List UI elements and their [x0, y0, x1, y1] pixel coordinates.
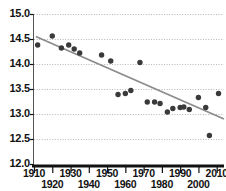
data-point [71, 46, 76, 51]
data-point [77, 50, 82, 55]
data-point [99, 52, 104, 57]
y-tick-label: 13.0 [0, 107, 30, 119]
data-points [35, 33, 221, 138]
x-tick-label: 1940 [72, 178, 106, 190]
x-tick-label: 1960 [108, 178, 142, 190]
data-point [108, 58, 113, 63]
y-tick-label: 14.5 [0, 32, 30, 44]
data-point [207, 133, 212, 138]
scatter-plot [0, 0, 226, 191]
data-point [216, 91, 221, 96]
x-tick-label: 1920 [35, 178, 69, 190]
data-point [66, 42, 71, 47]
data-point [157, 101, 162, 106]
data-point [35, 42, 40, 47]
trend-line [36, 37, 224, 120]
data-point [123, 91, 128, 96]
x-tick-label: 1980 [145, 178, 179, 190]
trend-line-segment [36, 37, 224, 120]
data-point [196, 95, 201, 100]
y-tick-label: 15.0 [0, 7, 30, 19]
data-point [187, 107, 192, 112]
data-point [128, 88, 133, 93]
y-tick-label: 13.5 [0, 82, 30, 94]
data-point [50, 33, 55, 38]
y-tick-label: 14.0 [0, 57, 30, 69]
x-tick-label: 2000 [181, 178, 215, 190]
data-point [181, 104, 186, 109]
data-point [59, 45, 64, 50]
chart-container: 15.014.514.013.513.012.512.0 19101930195… [0, 0, 226, 191]
data-point [115, 92, 120, 97]
data-point [137, 60, 142, 65]
data-point [170, 106, 175, 111]
data-point [165, 109, 170, 114]
data-point [145, 99, 150, 104]
data-point [203, 105, 208, 110]
y-tick-label: 12.5 [0, 132, 30, 144]
data-point [152, 99, 157, 104]
